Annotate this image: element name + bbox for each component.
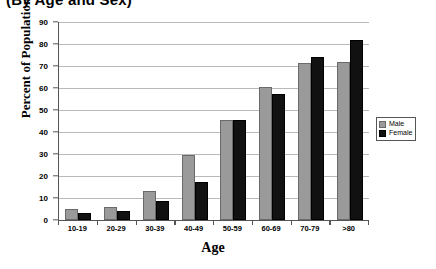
bar-male: [65, 209, 78, 220]
bar-female: [156, 201, 169, 220]
y-axis-tick-label: 10: [39, 194, 48, 203]
bar-male: [143, 191, 156, 220]
bar-group: [98, 22, 137, 220]
bar-male: [182, 155, 195, 220]
x-axis-title: Age: [58, 240, 368, 256]
legend-item: Female: [379, 129, 412, 138]
bar-male: [104, 207, 117, 220]
legend-item: Male: [379, 120, 412, 129]
bar-female: [78, 213, 91, 220]
x-axis-tick-label: 40-49: [174, 224, 213, 233]
x-axis-tick-label: 60-69: [252, 224, 291, 233]
y-axis-tick-label: 80: [39, 40, 48, 49]
bar-female: [195, 182, 208, 221]
legend-label: Male: [389, 120, 404, 129]
x-axis-tick-label: 70-79: [291, 224, 330, 233]
bar-female: [350, 40, 363, 220]
x-axis-tickmark: [368, 220, 369, 225]
bar-group: [175, 22, 214, 220]
legend-swatch-female-icon: [379, 130, 386, 137]
bar-group: [253, 22, 292, 220]
y-axis-tick-label: 50: [39, 106, 48, 115]
bar-male: [337, 62, 350, 220]
bar-female: [117, 211, 130, 220]
bar-group: [214, 22, 253, 220]
bar-group: [59, 22, 98, 220]
bar-female: [272, 94, 285, 221]
legend-swatch-male-icon: [379, 121, 386, 128]
x-axis-tick-label: 10-19: [58, 224, 97, 233]
bar-male: [259, 87, 272, 220]
y-axis-tick-label: 90: [39, 18, 48, 27]
chart-figure: (By Age and Sex) Percent of Population 0…: [0, 0, 436, 269]
bar-female: [233, 120, 246, 220]
legend: MaleFemale: [376, 117, 416, 141]
y-axis-tick-label: 20: [39, 172, 48, 181]
y-axis-tick-label: 70: [39, 62, 48, 71]
x-axis-labels: 10-1920-2930-3940-4950-5960-6970-79>80: [58, 224, 368, 233]
x-axis-tick-label: 30-39: [136, 224, 175, 233]
bar-group: [137, 22, 176, 220]
bar-group: [330, 22, 369, 220]
y-axis-tick-label: 60: [39, 84, 48, 93]
x-axis-tick-label: >80: [329, 224, 368, 233]
bar-male: [298, 63, 311, 220]
bar-female: [311, 57, 324, 220]
legend-label: Female: [389, 129, 412, 138]
plot-area: [58, 22, 369, 221]
x-axis-tick-label: 50-59: [213, 224, 252, 233]
y-axis: 0102030405060708090: [0, 0, 58, 222]
y-axis-tick-label: 40: [39, 128, 48, 137]
y-axis-tick-label: 0: [44, 216, 48, 225]
bar-groups: [59, 22, 369, 220]
x-axis-tick-label: 20-29: [97, 224, 136, 233]
y-axis-tick-label: 30: [39, 150, 48, 159]
bar-group: [292, 22, 331, 220]
bar-male: [220, 120, 233, 220]
